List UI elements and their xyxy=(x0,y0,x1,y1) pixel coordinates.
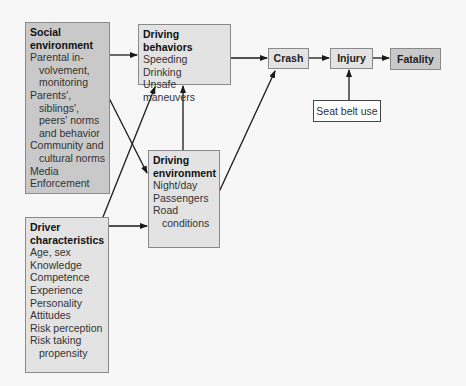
social-environment-title: Social environment xyxy=(30,26,105,51)
social-item: Parents', xyxy=(30,89,105,102)
driver-characteristics-title: Driver xyxy=(30,221,104,234)
fatality-label: Fatality xyxy=(397,53,434,66)
injury-label: Injury xyxy=(337,52,366,65)
social-item: and behavior xyxy=(30,127,105,140)
arrow-environment-to-crash xyxy=(219,71,275,192)
driver-item: Attitudes xyxy=(30,309,104,322)
driver-item: Experience xyxy=(30,284,104,297)
crash-label: Crash xyxy=(274,52,304,65)
driving-environment-box: Driving environment Night/day Passengers… xyxy=(148,150,220,248)
social-item: siblings', xyxy=(30,102,105,115)
behaviors-item: Unsafe maneuvers xyxy=(143,78,226,103)
seat-belt-use-label: Seat belt use xyxy=(316,105,377,118)
social-item: volvement, xyxy=(30,64,105,77)
social-item: cultural norms xyxy=(30,152,105,165)
driving-behaviors-box: Driving behaviors Speeding Drinking Unsa… xyxy=(138,24,231,85)
social-item: Community and xyxy=(30,139,105,152)
driving-environment-title: environment xyxy=(153,167,215,180)
injury-box: Injury xyxy=(330,48,373,69)
driver-item: Personality xyxy=(30,297,104,310)
environment-item: Night/day xyxy=(153,179,215,192)
driver-item: Risk taking xyxy=(30,334,104,347)
driver-item: Competence xyxy=(30,271,104,284)
arrow-social-to-environment xyxy=(109,98,147,173)
environment-item: conditions xyxy=(153,217,215,230)
social-item: Parental in- xyxy=(30,51,105,64)
social-item: Media xyxy=(30,165,105,178)
driver-characteristics-title: characteristics xyxy=(30,234,104,247)
driver-characteristics-box: Driver characteristics Age, sex Knowledg… xyxy=(25,217,109,373)
environment-item: Road xyxy=(153,204,215,217)
seat-belt-use-box: Seat belt use xyxy=(313,100,381,122)
driving-behaviors-title: Driving behaviors xyxy=(143,28,226,53)
social-item: peers' norms xyxy=(30,114,105,127)
social-environment-box: Social environment Parental in- volvemen… xyxy=(25,22,110,194)
crash-box: Crash xyxy=(268,48,309,69)
driver-item: Knowledge xyxy=(30,259,104,272)
fatality-box: Fatality xyxy=(390,48,441,70)
behaviors-item: Speeding xyxy=(143,53,226,66)
driver-item: Age, sex xyxy=(30,246,104,259)
environment-item: Passengers xyxy=(153,192,215,205)
social-item: monitoring xyxy=(30,76,105,89)
behaviors-item: Drinking xyxy=(143,66,226,79)
driver-item: propensity xyxy=(30,347,104,360)
driving-environment-title: Driving xyxy=(153,154,215,167)
driver-item: Risk perception xyxy=(30,322,104,335)
social-item: Enforcement xyxy=(30,177,105,190)
